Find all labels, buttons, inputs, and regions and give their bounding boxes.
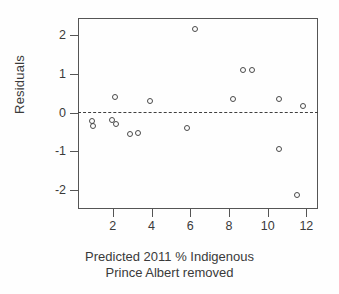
residual-plot-figure: Residuals 210-1-224681012 Predicted 2011… <box>0 0 339 294</box>
data-point <box>127 131 133 137</box>
data-point <box>276 96 282 102</box>
data-point <box>276 146 282 152</box>
x-axis-title: Predicted 2011 % Indigenous Prince Alber… <box>0 249 339 280</box>
x-axis-title-line2: Prince Albert removed <box>0 265 339 281</box>
data-point <box>230 96 236 102</box>
x-axis-title-line1: Predicted 2011 % Indigenous <box>0 249 339 265</box>
data-point <box>112 94 118 100</box>
data-point <box>300 103 306 109</box>
data-point <box>113 121 119 127</box>
data-point <box>249 67 255 73</box>
data-point <box>192 26 198 32</box>
data-point <box>147 98 153 104</box>
data-point <box>184 125 190 131</box>
data-point <box>135 130 141 136</box>
data-point <box>240 67 246 73</box>
data-point <box>294 192 300 198</box>
data-point <box>90 123 96 129</box>
